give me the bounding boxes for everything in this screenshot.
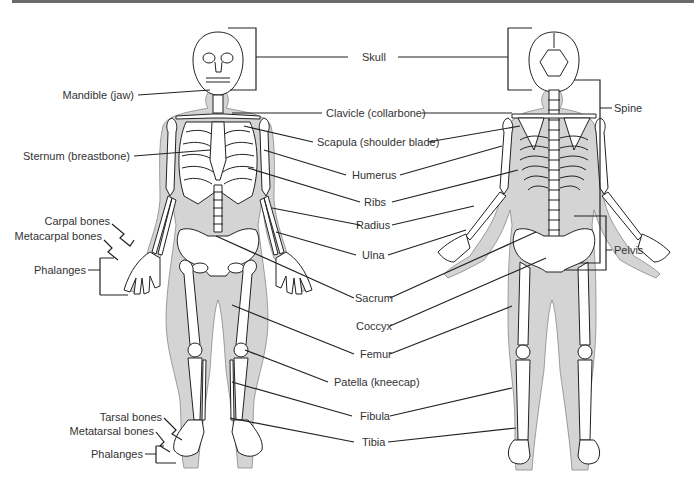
label-tarsal-bones: Tarsal bones bbox=[60, 411, 162, 423]
label-clavicle: Clavicle (collarbone) bbox=[326, 107, 426, 119]
front-hand-left bbox=[124, 252, 160, 294]
front-skull bbox=[193, 32, 243, 95]
label-radius: Radius bbox=[356, 219, 390, 231]
label-sternum: Sternum (breastbone) bbox=[10, 150, 130, 162]
label-ulna: Ulna bbox=[362, 249, 385, 261]
front-figure bbox=[124, 32, 312, 468]
back-hand-left bbox=[438, 234, 470, 262]
label-fibula: Fibula bbox=[360, 410, 390, 422]
label-sacrum: Sacrum bbox=[355, 292, 393, 304]
label-femur: Femur bbox=[360, 348, 392, 360]
label-phalanges-foot: Phalanges bbox=[70, 448, 143, 460]
label-coccyx: Coccyx bbox=[356, 320, 392, 332]
label-pelvis: Pelvis bbox=[614, 244, 643, 256]
label-patella: Patella (kneecap) bbox=[334, 376, 420, 388]
label-humerus: Humerus bbox=[352, 169, 397, 181]
front-hand-right bbox=[276, 252, 312, 294]
label-scapula: Scapula (shoulder blade) bbox=[317, 136, 439, 148]
label-spine: Spine bbox=[614, 102, 642, 114]
label-skull: Skull bbox=[362, 51, 386, 63]
label-phalanges-hand: Phalanges bbox=[20, 264, 86, 276]
label-mandible: Mandible (jaw) bbox=[48, 89, 134, 101]
label-metatarsal-bones: Metatarsal bones bbox=[40, 425, 154, 437]
label-ribs: Ribs bbox=[364, 196, 386, 208]
label-tibia: Tibia bbox=[362, 436, 385, 448]
label-metacarpal-bones: Metacarpal bones bbox=[10, 230, 102, 242]
label-carpal-bones: Carpal bones bbox=[30, 215, 110, 227]
